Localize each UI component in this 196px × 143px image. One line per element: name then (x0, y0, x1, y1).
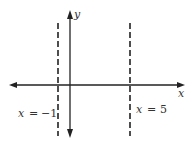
y-axis (67, 10, 73, 138)
asymptote-label-neg1: x = −1 (18, 107, 57, 120)
asymptote-label-5-var: x (136, 103, 143, 116)
x-axis (9, 82, 185, 88)
y-axis-label: y (73, 8, 81, 21)
y-axis-down-arrow-icon (67, 129, 73, 138)
asymptote-label-neg1-var: x (18, 107, 25, 120)
x-axis-label: x (178, 87, 185, 100)
asymptote-label-5: x = 5 (136, 103, 167, 116)
asymptote-label-5-val: 5 (160, 103, 167, 116)
coordinate-plane: y x x = −1 x = 5 (0, 0, 196, 143)
y-axis-up-arrow-icon (67, 10, 73, 19)
asymptote-label-neg1-eq: = (29, 107, 38, 120)
x-axis-left-arrow-icon (9, 82, 17, 88)
asymptote-label-5-eq: = (147, 103, 156, 116)
asymptote-label-neg1-val: −1 (41, 107, 57, 120)
